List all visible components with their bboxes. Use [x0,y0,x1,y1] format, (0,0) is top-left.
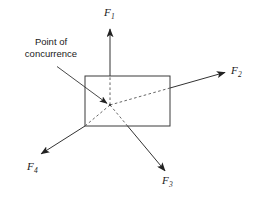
force-diagram-figure: Point of concurrence F1 F2 F3 F4 [0,0,256,201]
force-label-F3: F3 [162,174,172,186]
force-label-F3-base: F [162,174,169,186]
diagram-canvas [0,0,256,201]
force-label-F4-base: F [27,160,34,172]
force-label-F1-subscript: 1 [111,12,115,21]
force-label-F1-base: F [104,6,111,18]
rigid-body-rectangle [85,76,170,126]
force-label-F2-base: F [231,64,238,76]
force-line-F4-solid-segment [41,126,85,154]
concurrence-label-line-1: Point of [35,36,67,47]
concurrence-point-marker [109,104,111,106]
force-label-F2-subscript: 2 [238,70,242,79]
force-label-F4: F4 [27,160,37,172]
force-label-F2: F2 [231,64,241,76]
concurrence-label-line-2: concurrence [25,48,77,59]
force-label-F3-subscript: 3 [169,180,173,189]
concurrence-annotation-label: Point of concurrence [14,36,88,59]
force-line-F2-solid-segment [170,72,225,88]
force-line-F3-solid-segment [128,126,165,171]
force-label-F1: F1 [104,6,114,18]
force-label-F4-subscript: 4 [34,166,38,175]
